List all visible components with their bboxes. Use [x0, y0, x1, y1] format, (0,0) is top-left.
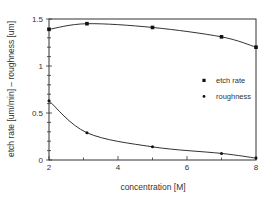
- plot-frame: [49, 19, 256, 160]
- fit-curves: [49, 24, 256, 158]
- legend-marker-square-icon: [202, 79, 205, 82]
- data-point-roughness: [220, 152, 223, 155]
- data-points: [47, 22, 258, 160]
- x-tick-label: 4: [116, 163, 121, 172]
- y-tick-label: 1.5: [32, 15, 44, 24]
- data-point-roughness: [85, 131, 88, 134]
- legend-marker-dot-icon: [203, 95, 206, 98]
- legend: etch rateroughness: [202, 76, 251, 101]
- chart: 246800.511.5 etch rateroughness concentr…: [0, 0, 269, 198]
- legend-label: roughness: [216, 92, 251, 101]
- x-tick-label: 6: [185, 163, 190, 172]
- data-point-roughness: [255, 157, 258, 160]
- y-tick-label: 0: [39, 156, 44, 165]
- legend-label: etch rate: [216, 76, 245, 85]
- data-point-etch-rate: [85, 22, 89, 26]
- x-axis-title: concentration [M]: [120, 182, 185, 192]
- data-point-roughness: [48, 99, 51, 102]
- y-tick-label: 0.5: [32, 109, 44, 118]
- data-point-etch-rate: [151, 26, 155, 30]
- data-point-etch-rate: [254, 45, 258, 49]
- x-tick-label: 8: [254, 163, 259, 172]
- y-tick-label: 1: [39, 62, 44, 71]
- data-point-etch-rate: [220, 35, 224, 39]
- x-tick-label: 2: [47, 163, 52, 172]
- data-point-roughness: [151, 145, 154, 148]
- data-point-etch-rate: [47, 28, 51, 32]
- y-axis-title: etch rate [um/min] – roughness [um]: [6, 21, 16, 157]
